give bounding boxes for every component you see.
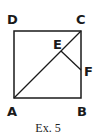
label-a: A xyxy=(7,105,17,118)
label-d: D xyxy=(7,13,18,26)
diagonal-ac xyxy=(14,31,81,98)
label-f: F xyxy=(84,65,93,78)
segment-ef xyxy=(61,51,81,70)
figure-caption: Ex. 5 xyxy=(0,121,96,136)
label-b: B xyxy=(77,105,87,118)
geometry-figure: D C E F A B Ex. 5 xyxy=(0,0,96,140)
label-c: C xyxy=(76,13,86,26)
label-e: E xyxy=(53,38,62,51)
